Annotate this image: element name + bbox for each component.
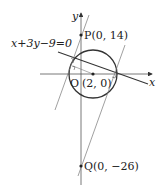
center-radius-segment [73, 66, 93, 74]
x-axis-label: x [149, 76, 156, 89]
point-Q [79, 164, 82, 167]
coordinate-diagram: y x O P(0, 14) Q(0, −26) (2, 0) x+3y−9=0 [0, 0, 163, 191]
center-label: (2, 0) [82, 77, 112, 90]
point-P [79, 33, 82, 36]
line-equation-label: x+3y−9=0 [11, 37, 72, 50]
point-P-label: P(0, 14) [84, 29, 128, 42]
y-axis-label: y [71, 10, 79, 23]
origin-label: O [70, 77, 79, 90]
point-Q-label: Q(0, −26) [84, 160, 139, 173]
point-center [91, 72, 94, 75]
right-angle-mark-left-2 [72, 66, 75, 70]
tangent-line-right [78, 45, 125, 176]
